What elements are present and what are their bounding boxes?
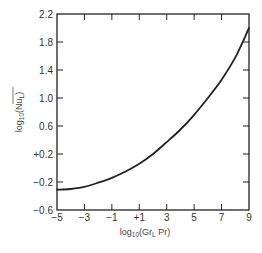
y-tick-labels: −0.6−0.2+0.20.61.01.41.82.2 xyxy=(33,9,53,216)
x-tick-label: 7 xyxy=(219,212,225,223)
plot-frame xyxy=(57,14,249,210)
x-tick-label: −5 xyxy=(51,212,63,223)
x-tick-label: 5 xyxy=(191,212,197,223)
x-axis-label: log10(GrL Pr) xyxy=(120,227,170,238)
x-tick-label: −1 xyxy=(106,212,118,223)
data-curve xyxy=(57,28,249,190)
x-tick-label: 9 xyxy=(246,212,252,223)
y-tick-label: 0.6 xyxy=(39,121,53,132)
y-tick-label: +0.2 xyxy=(33,149,53,160)
x-tick-label: −3 xyxy=(79,212,91,223)
x-tick-label: +1 xyxy=(134,212,146,223)
x-tick-labels: −5−3−1+13579 xyxy=(51,212,252,223)
x-tick-label: 3 xyxy=(164,212,170,223)
y-tick-label: −0.2 xyxy=(33,177,53,188)
y-tick-label: 2.2 xyxy=(39,9,53,20)
y-axis-label: log10(NuL) xyxy=(14,92,25,132)
y-tick-label: 1.8 xyxy=(39,37,53,48)
y-tick-label: −0.6 xyxy=(33,205,53,216)
y-tick-label: 1.0 xyxy=(39,93,53,104)
chart: −5−3−1+13579 −0.6−0.2+0.20.61.01.41.82.2… xyxy=(0,0,262,253)
y-axis-ticks xyxy=(57,42,249,182)
y-tick-label: 1.4 xyxy=(39,65,53,76)
